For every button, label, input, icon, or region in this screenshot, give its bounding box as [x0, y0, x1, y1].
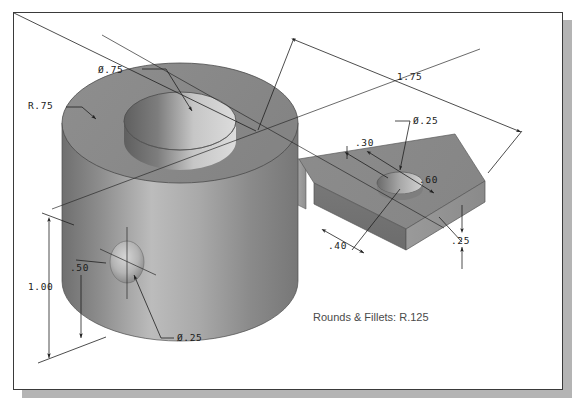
d-60-label: .60 [419, 174, 438, 185]
h-50-label: .50 [70, 262, 89, 273]
len-175-ext-b [488, 131, 522, 173]
d-30-label: .30 [355, 137, 374, 148]
d-25-label: .25 [451, 235, 470, 246]
part-cylinder-bore-top [124, 92, 236, 150]
h-100-ext-bot [38, 337, 106, 363]
top-margin-strip [0, 0, 585, 11]
part-solid [62, 63, 485, 341]
h-100-label: 1.00 [28, 281, 53, 292]
drawing-sheet: Ø.75 R.75 1.75 Ø.25 [13, 12, 563, 390]
d-40-label: .40 [328, 240, 347, 251]
rad-75-label: R.75 [28, 100, 53, 111]
rounds-fillets-note: Rounds & Fillets: R.125 [313, 311, 429, 323]
dia-75-label: Ø.75 [98, 64, 123, 75]
dia-25-side-label: Ø.25 [177, 332, 202, 343]
len-175-label: 1.75 [397, 71, 422, 82]
dia-25-arm-label: Ø.25 [413, 115, 438, 126]
len-175-dimline [295, 40, 521, 132]
screenshot-page: Ø.75 R.75 1.75 Ø.25 [0, 0, 585, 417]
isometric-part-drawing: Ø.75 R.75 1.75 Ø.25 [14, 13, 563, 390]
